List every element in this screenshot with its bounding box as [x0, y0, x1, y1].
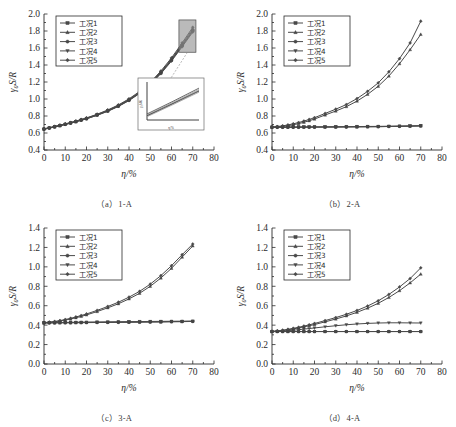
- x-axis-title: η/%: [349, 169, 364, 179]
- x-tick-label: 50: [146, 367, 156, 377]
- legend-entry-label: 工况4: [79, 47, 98, 56]
- legend-entry-label: 工况2: [307, 242, 326, 251]
- figure-container: 010203040506070800.40.60.81.01.21.41.61.…: [0, 0, 456, 427]
- y-axis-ticks: 0.00.20.40.60.81.01.21.4: [28, 223, 47, 369]
- legend-entry-label: 工况4: [307, 261, 326, 270]
- y-tick-label: 1.4: [256, 60, 268, 70]
- y-tick-label: 1.0: [256, 262, 268, 272]
- legend-entry-label: 工况1: [307, 233, 326, 242]
- legend: 工况1工况2工况3工况4工况5: [284, 230, 350, 280]
- y-tick-label: 1.8: [28, 26, 40, 36]
- y-tick-label: 0.2: [28, 340, 40, 350]
- x-tick-label: 70: [416, 153, 426, 163]
- chart-d: 010203040506070800.00.20.40.60.81.01.21.…: [228, 214, 456, 410]
- x-tick-label: 70: [188, 367, 198, 377]
- legend-entry-label: 工况3: [79, 37, 98, 46]
- y-tick-label: 0.4: [256, 321, 268, 331]
- legend-entry-label: 工况3: [79, 251, 98, 260]
- x-tick-label: 10: [289, 153, 299, 163]
- y-tick-label: 0.4: [28, 321, 40, 331]
- y-axis-title: γ₀S/R: [236, 286, 246, 306]
- inset-y-axis-title: γ₀S/R: [139, 99, 143, 108]
- legend-entry-label: 工况1: [79, 19, 98, 28]
- y-tick-label: 2.0: [28, 9, 40, 19]
- x-tick-label: 30: [331, 367, 341, 377]
- x-tick-label: 40: [352, 367, 362, 377]
- y-axis-title: γ₀S/R: [8, 286, 18, 306]
- x-tick-label: 60: [167, 153, 177, 163]
- legend-entry-label: 工况3: [307, 37, 326, 46]
- x-axis-ticks: 01020304050607080: [270, 361, 447, 378]
- x-tick-label: 50: [374, 153, 384, 163]
- x-tick-label: 60: [395, 367, 405, 377]
- legend: 工况1工况2工况3工况4工况5: [284, 16, 350, 66]
- x-tick-label: 40: [352, 153, 362, 163]
- x-tick-label: 80: [209, 367, 219, 377]
- legend-entry-label: 工况2: [307, 28, 326, 37]
- x-tick-label: 30: [331, 153, 341, 163]
- x-tick-label: 70: [416, 367, 426, 377]
- y-tick-label: 0.8: [256, 282, 268, 292]
- y-tick-label: 1.6: [28, 43, 40, 53]
- y-tick-label: 1.0: [28, 262, 40, 272]
- chart-a: 010203040506070800.40.60.81.01.21.41.61.…: [0, 0, 228, 196]
- x-tick-label: 70: [188, 153, 198, 163]
- x-tick-label: 10: [289, 367, 299, 377]
- x-tick-label: 60: [167, 367, 177, 377]
- y-tick-label: 0.6: [28, 301, 40, 311]
- y-axis-ticks: 0.40.60.81.01.21.41.61.82.0: [256, 9, 275, 155]
- chart-b: 010203040506070800.40.60.81.01.21.41.61.…: [228, 0, 456, 196]
- y-tick-label: 0.4: [256, 145, 268, 155]
- subplot-caption-b: （b）2-A: [228, 197, 456, 209]
- y-tick-label: 0.8: [28, 111, 40, 121]
- inset-x-axis-title: η/%: [168, 126, 174, 130]
- x-axis-title: η/%: [121, 169, 136, 179]
- x-tick-label: 10: [61, 153, 71, 163]
- x-tick-label: 60: [395, 153, 405, 163]
- legend-entry-label: 工况1: [307, 19, 326, 28]
- x-tick-label: 0: [270, 153, 275, 163]
- legend-entry-label: 工况5: [79, 56, 98, 65]
- subplot-panel-b: 010203040506070800.40.60.81.01.21.41.61.…: [228, 0, 456, 213]
- y-tick-label: 1.4: [28, 223, 40, 233]
- x-tick-label: 50: [146, 153, 156, 163]
- x-tick-label: 0: [270, 367, 275, 377]
- y-tick-label: 0.8: [28, 282, 40, 292]
- x-tick-label: 20: [310, 367, 320, 377]
- y-tick-label: 2.0: [256, 9, 268, 19]
- x-tick-label: 30: [103, 367, 113, 377]
- y-tick-label: 1.2: [28, 77, 40, 87]
- legend-entry-label: 工况5: [307, 56, 326, 65]
- y-axis-ticks: 0.00.20.40.60.81.01.21.4: [256, 223, 275, 369]
- x-tick-label: 50: [374, 367, 384, 377]
- y-tick-label: 1.0: [28, 94, 40, 104]
- legend-entry-label: 工况4: [79, 261, 98, 270]
- y-tick-label: 0.6: [256, 128, 268, 138]
- y-axis-title: γ₀S/R: [236, 72, 246, 92]
- x-tick-label: 0: [42, 153, 47, 163]
- y-tick-label: 1.8: [256, 26, 268, 36]
- x-tick-label: 10: [61, 367, 71, 377]
- y-tick-label: 0.0: [256, 359, 268, 369]
- x-tick-label: 80: [209, 153, 219, 163]
- legend-entry-label: 工况2: [79, 242, 98, 251]
- legend: 工况1工况2工况3工况4工况5: [56, 230, 122, 280]
- x-tick-label: 40: [124, 153, 134, 163]
- legend-entry-label: 工况5: [307, 270, 326, 279]
- x-tick-label: 20: [82, 367, 92, 377]
- y-tick-label: 1.6: [256, 43, 268, 53]
- legend-entry-label: 工况2: [79, 28, 98, 37]
- subplot-caption-a: （a）1-A: [0, 197, 228, 209]
- x-tick-label: 40: [124, 367, 134, 377]
- y-tick-label: 1.4: [28, 60, 40, 70]
- x-axis-ticks: 01020304050607080: [42, 361, 219, 378]
- legend-entry-label: 工况1: [79, 233, 98, 242]
- x-axis-title: η/%: [349, 383, 364, 393]
- magnified-inset: η/%γ₀S/R: [138, 20, 204, 130]
- y-tick-label: 1.0: [256, 94, 268, 104]
- x-axis-ticks: 01020304050607080: [42, 147, 219, 164]
- legend-entry-label: 工况4: [307, 47, 326, 56]
- legend: 工况1工况2工况3工况4工况5: [56, 16, 122, 66]
- x-axis-ticks: 01020304050607080: [270, 147, 447, 164]
- legend-entry-label: 工况3: [307, 251, 326, 260]
